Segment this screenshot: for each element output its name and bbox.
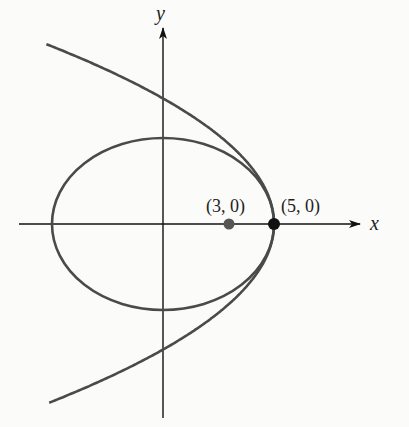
y-axis-label: y bbox=[154, 2, 165, 25]
point-label-5-0: (5, 0) bbox=[281, 196, 320, 217]
point-focus-3-0 bbox=[224, 219, 235, 230]
diagram-canvas: (3, 0) (5, 0) x y bbox=[0, 0, 409, 427]
x-axis-label: x bbox=[369, 212, 379, 234]
point-vertex-5-0 bbox=[268, 218, 280, 230]
point-label-3-0: (3, 0) bbox=[206, 196, 245, 217]
